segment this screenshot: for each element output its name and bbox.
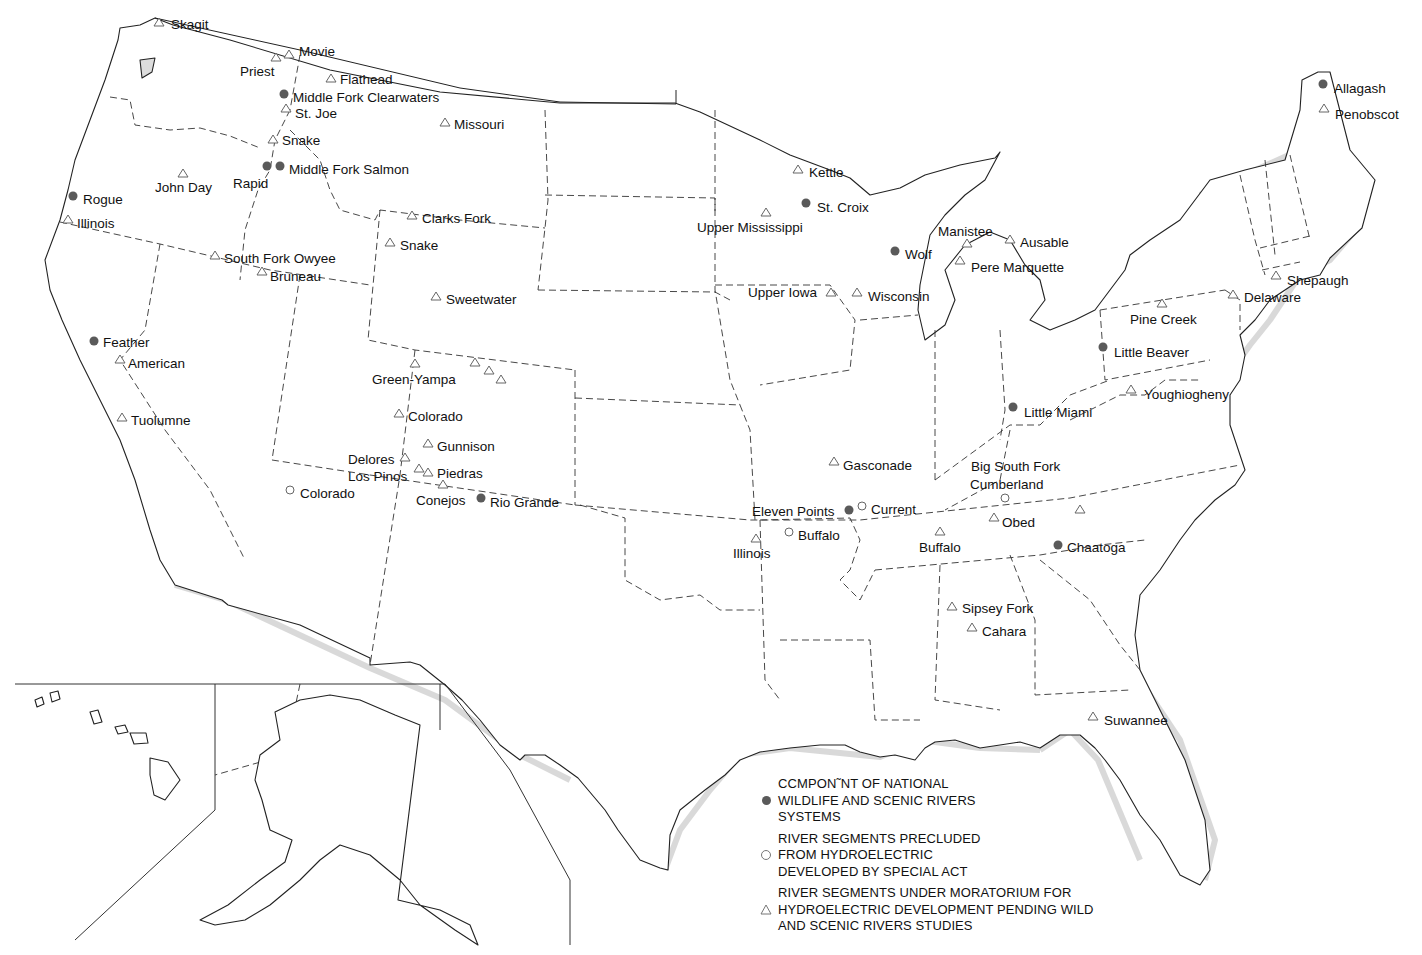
river-label: Piedras	[437, 466, 483, 481]
river-label: Rio Grande	[490, 495, 559, 510]
open-circle-icon	[1001, 494, 1009, 502]
open-circle-icon	[286, 486, 294, 494]
river-label: Middle Fork Salmon	[289, 162, 409, 177]
us-wild-scenic-rivers-map: SkagitMoviePriestFlatheadMiddle Fork Cle…	[0, 0, 1422, 955]
river-label: Colorado	[300, 486, 355, 501]
filled-circle-icon	[891, 247, 900, 256]
open-circle-icon	[785, 528, 793, 536]
river-label: Obed	[1002, 515, 1035, 530]
legend-text: RIVER SEGMENTS PRECLUDED	[778, 831, 981, 848]
legend-text: AND SCENIC RIVERS STUDIES	[778, 918, 1094, 935]
river-label: Gunnison	[437, 439, 495, 454]
river-label: Buffalo	[919, 540, 961, 555]
river-label: Youghiogheny	[1144, 387, 1229, 402]
legend-text: HYDROELECTRIC DEVELOPMENT PENDING WILD	[778, 902, 1094, 919]
river-label: Green-Yampa	[372, 372, 456, 387]
filled-circle-icon	[477, 494, 486, 503]
river-label: Pere Marquette	[971, 260, 1064, 275]
river-label: Illinois	[733, 546, 771, 561]
river-label: John Day	[155, 180, 212, 195]
legend-item-precluded: RIVER SEGMENTS PRECLUDED FROM HYDROELECT…	[758, 831, 1158, 881]
filled-circle-icon	[280, 90, 289, 99]
river-label: Wolf	[905, 247, 932, 262]
river-label: Rapid	[233, 176, 268, 191]
filled-circle-icon	[263, 162, 272, 171]
filled-circle-icon	[1009, 403, 1018, 412]
river-label: Pine Creek	[1130, 312, 1197, 327]
legend-text: FROM HYDROELECTRIC	[778, 847, 981, 864]
river-label: Tuolumne	[131, 413, 191, 428]
river-label: Illinois	[77, 216, 115, 231]
river-label: Missouri	[454, 117, 504, 132]
river-label: Manistee	[938, 224, 993, 239]
river-label: Ausable	[1020, 235, 1069, 250]
river-label: Sweetwater	[446, 292, 517, 307]
legend: CCMPON˜NT OF NATIONAL WILDLIFE AND SCENI…	[758, 776, 1158, 940]
river-label: Cahara	[982, 624, 1027, 639]
river-label: Eleven Points	[752, 504, 835, 519]
filled-circle-icon	[1099, 343, 1108, 352]
river-label: South Fork Owyee	[224, 251, 336, 266]
legend-item-moratorium: RIVER SEGMENTS UNDER MORATORIUM FOR HYDR…	[758, 885, 1158, 935]
river-label: Snake	[400, 238, 438, 253]
open-triangle-icon	[760, 904, 772, 915]
river-label: Upper Iowa	[748, 285, 818, 300]
filled-circle-icon	[845, 506, 854, 515]
filled-circle-icon	[1319, 80, 1328, 89]
river-label: Los Pinos	[348, 469, 408, 484]
river-label: Delores	[348, 452, 395, 467]
river-label: Conejos	[416, 493, 466, 508]
open-circle-icon	[761, 850, 771, 860]
river-label: Gasconade	[843, 458, 912, 473]
legend-text: DEVELOPED BY SPECIAL ACT	[778, 864, 981, 881]
river-label: Buffalo	[798, 528, 840, 543]
river-label: Sipsey Fork	[962, 601, 1034, 616]
river-label: Big South Fork	[971, 459, 1061, 474]
river-label: Clarks Fork	[422, 211, 491, 226]
river-label: Movie	[299, 44, 335, 59]
filled-circle-icon	[762, 796, 771, 805]
river-label: St. Croix	[817, 200, 869, 215]
legend-text: RIVER SEGMENTS UNDER MORATORIUM FOR	[778, 885, 1094, 902]
filled-circle-icon	[90, 337, 99, 346]
us-outline	[45, 18, 1375, 885]
river-label: Bruneau	[270, 269, 321, 284]
river-label: Wisconsin	[868, 289, 930, 304]
river-label: Feather	[103, 335, 150, 350]
river-label: Little Beaver	[1114, 345, 1190, 360]
river-label: American	[128, 356, 185, 371]
river-label: Chaatoga	[1067, 540, 1126, 555]
river-label: Current	[871, 502, 916, 517]
legend-text: SYSTEMS	[778, 809, 976, 826]
filled-circle-icon	[69, 192, 78, 201]
open-triangle-icon	[284, 50, 294, 58]
river-label: Kettle	[809, 165, 844, 180]
open-circle-icon	[858, 502, 866, 510]
filled-circle-icon	[276, 162, 285, 171]
legend-text: CCMPON˜NT OF NATIONAL	[778, 776, 976, 793]
river-label: Cumberland	[970, 477, 1044, 492]
river-label: Suwannee	[1104, 713, 1168, 728]
river-label: Delaware	[1244, 290, 1301, 305]
river-label: Penobscot	[1335, 107, 1399, 122]
filled-circle-icon	[802, 199, 811, 208]
river-label: Upper Mississippi	[697, 220, 803, 235]
river-label: St. Joe	[295, 106, 337, 121]
river-label: Middle Fork Clearwaters	[293, 90, 440, 105]
legend-text: WILDLIFE AND SCENIC RIVERS	[778, 793, 976, 810]
river-label: Colorado	[408, 409, 463, 424]
legend-item-component: CCMPON˜NT OF NATIONAL WILDLIFE AND SCENI…	[758, 776, 1158, 826]
river-label: Skagit	[171, 17, 209, 32]
river-label: Allagash	[1334, 81, 1386, 96]
filled-circle-icon	[1054, 541, 1063, 550]
river-label: Shepaugh	[1287, 273, 1349, 288]
river-label: Little Miami	[1024, 405, 1092, 420]
river-label: Rogue	[83, 192, 123, 207]
river-label: Snake	[282, 133, 320, 148]
river-label: Flathead	[340, 72, 393, 87]
river-label: Priest	[240, 64, 275, 79]
